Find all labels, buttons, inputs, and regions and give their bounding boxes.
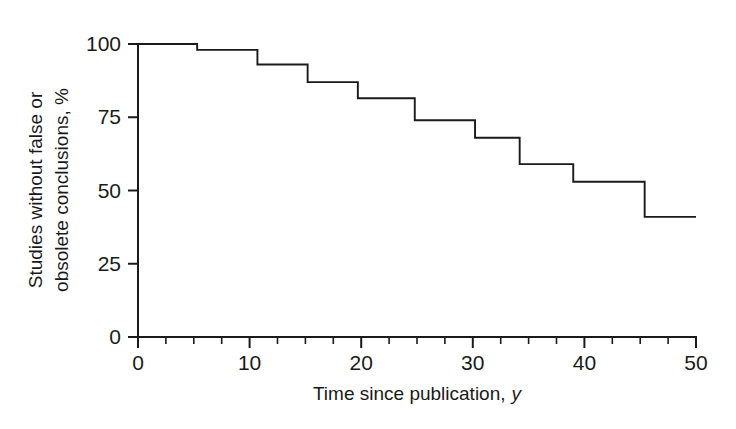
- x-tick-label-20: 20: [350, 351, 373, 374]
- y-tick-label-75: 75: [98, 105, 121, 128]
- x-axis-title: Time since publication, y: [313, 383, 523, 404]
- x-axis-title-text: Time since publication,: [313, 383, 506, 404]
- y-tick-label-0: 0: [109, 325, 121, 348]
- x-tick-label-10: 10: [238, 351, 261, 374]
- x-tick-label-30: 30: [461, 351, 484, 374]
- x-axis-minor-ticks: [166, 337, 668, 344]
- y-tick-label-25: 25: [98, 252, 121, 275]
- x-tick-label-50: 50: [684, 351, 707, 374]
- y-tick-label-50: 50: [98, 179, 121, 202]
- x-tick-label-0: 0: [132, 351, 144, 374]
- y-tick-label-100: 100: [86, 32, 121, 55]
- y-axis-title-line2: obsolete conclusions, %: [51, 88, 72, 292]
- y-axis-title-line1: Studies without false or: [25, 91, 46, 288]
- y-axis-tick-labels: 0255075100: [86, 32, 121, 348]
- chart-figure: 01020304050 0255075100 Time since public…: [0, 0, 736, 429]
- axis-spine-path: [138, 44, 696, 337]
- x-axis-tick-labels: 01020304050: [132, 351, 708, 374]
- data-series-line: [138, 44, 696, 217]
- step-chart: 01020304050 0255075100 Time since public…: [0, 0, 736, 429]
- y-axis-major-ticks: [128, 44, 138, 337]
- y-axis-title: Studies without false or obsolete conclu…: [25, 88, 72, 292]
- x-tick-label-40: 40: [573, 351, 596, 374]
- axis-spines: [138, 44, 696, 337]
- x-axis-title-symbol: y: [510, 383, 523, 404]
